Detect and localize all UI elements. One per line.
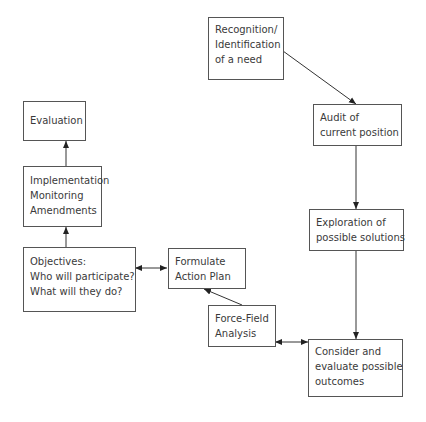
node-forcefield: Force-Field Analysis — [208, 305, 276, 347]
node-text: current position — [320, 125, 395, 140]
node-text: Monitoring — [30, 188, 95, 203]
node-text: Evaluation — [30, 113, 79, 128]
node-text: Analysis — [215, 326, 269, 341]
node-consider: Consider and evaluate possible outcomes — [308, 339, 403, 397]
node-text: Objectives: — [30, 254, 129, 269]
node-recognition: Recognition/ Identification of a need — [208, 17, 284, 80]
node-implementation: Implementation Monitoring Amendments — [23, 166, 102, 227]
node-text: evaluate possible — [315, 359, 396, 374]
edge-recognition-audit — [283, 51, 356, 104]
node-text: Amendments — [30, 203, 95, 218]
node-text: Force-Field — [215, 311, 269, 326]
node-text: possible solutions — [316, 230, 397, 245]
node-text: What will they do? — [30, 284, 129, 299]
node-evaluation: Evaluation — [23, 101, 86, 141]
node-text: Exploration of — [316, 215, 397, 230]
node-exploration: Exploration of possible solutions — [309, 209, 404, 251]
node-text: Audit of — [320, 110, 395, 125]
node-text: Who will participate? — [30, 269, 129, 284]
node-text: Action Plan — [175, 269, 239, 284]
edge-forcefield-formulate — [204, 289, 242, 305]
node-objectives: Objectives: Who will participate? What w… — [23, 247, 136, 312]
node-text: Consider and — [315, 344, 396, 359]
node-text: Recognition/ — [215, 22, 277, 37]
node-text: outcomes — [315, 374, 396, 389]
node-audit: Audit of current position — [313, 104, 402, 146]
node-text: of a need — [215, 52, 277, 67]
node-formulate: Formulate Action Plan — [168, 248, 246, 289]
node-text: Identification — [215, 37, 277, 52]
node-text: Formulate — [175, 254, 239, 269]
node-text: Implementation — [30, 173, 95, 188]
